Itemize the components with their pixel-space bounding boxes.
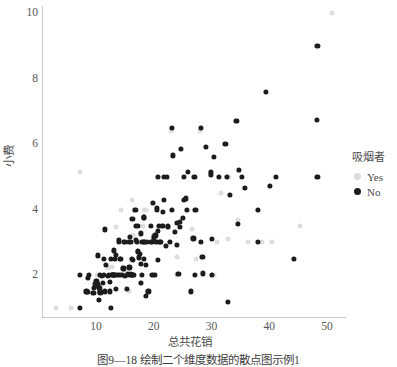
data-point-no [185, 169, 190, 174]
data-point-no [96, 297, 101, 302]
data-point-no [139, 281, 144, 286]
data-point-no [236, 222, 241, 227]
data-point-no [133, 207, 138, 212]
data-point-no [314, 117, 319, 122]
data-point-no [127, 265, 132, 270]
data-point-no [169, 207, 174, 212]
legend-item-no[interactable]: No [354, 184, 397, 199]
data-point-no [78, 272, 83, 277]
legend-title: 吸烟者 [352, 148, 397, 164]
data-point-no [193, 272, 198, 277]
legend-item-yes[interactable]: Yes [354, 169, 397, 184]
data-point-no [268, 183, 273, 188]
data-point-no [177, 224, 182, 229]
data-point-yes [189, 226, 194, 231]
legend-label-yes: Yes [367, 171, 383, 183]
data-point-yes [130, 197, 135, 202]
data-point-yes [174, 254, 179, 259]
data-point-no [198, 125, 203, 130]
data-point-no [160, 210, 165, 215]
data-point-no [191, 236, 196, 241]
data-point-no [107, 279, 112, 284]
data-point-yes [226, 236, 231, 241]
data-point-no [131, 272, 136, 277]
data-point-no [178, 146, 183, 151]
data-point-no [291, 256, 296, 261]
data-point-no [141, 215, 146, 220]
data-point-no [128, 240, 133, 245]
data-point-no [315, 174, 320, 179]
data-point-no [144, 262, 149, 267]
plot-area [42, 6, 345, 318]
data-point-yes [109, 265, 114, 270]
data-point-no [136, 223, 141, 228]
data-point-no [118, 256, 123, 261]
data-point-no [167, 240, 172, 245]
data-point-no [108, 305, 113, 310]
data-point-no [130, 216, 135, 221]
data-point-no [131, 257, 136, 262]
data-point-no [148, 223, 153, 228]
data-point-no [200, 254, 205, 259]
data-point-yes [53, 305, 58, 310]
data-point-yes [245, 240, 250, 245]
data-point-no [153, 233, 158, 238]
data-point-no [161, 197, 166, 202]
data-point-no [142, 256, 147, 261]
data-point-no [228, 192, 233, 197]
data-point-no [158, 240, 163, 245]
data-point-yes [69, 305, 74, 310]
x-axis-label: 总共花销 [0, 333, 380, 349]
data-point-no [243, 185, 248, 190]
data-point-no [169, 125, 174, 130]
data-point-yes [298, 223, 303, 228]
data-point-no [175, 242, 180, 247]
data-point-yes [118, 207, 123, 212]
data-point-no [184, 207, 189, 212]
data-point-no [164, 174, 169, 179]
data-point-no [103, 227, 108, 232]
data-point-no [211, 155, 216, 160]
data-point-no [203, 144, 208, 149]
data-point-no [225, 300, 230, 305]
data-point-no [170, 153, 175, 158]
legend-marker-no [354, 188, 361, 195]
data-point-no [239, 174, 244, 179]
data-point-no [108, 289, 113, 294]
data-point-no [234, 118, 239, 123]
data-point-no [95, 253, 100, 258]
data-point-yes [329, 11, 334, 16]
x-tick-label: 50 [307, 320, 347, 332]
data-point-no [263, 90, 268, 95]
data-point-no [223, 141, 228, 146]
data-point-no [85, 289, 90, 294]
y-tick-label: 10 [12, 7, 38, 18]
legend: 吸烟者 Yes No [352, 148, 397, 199]
data-point-yes [78, 169, 83, 174]
data-point-no [256, 207, 261, 212]
data-point-yes [259, 240, 264, 245]
data-point-no [101, 256, 106, 261]
data-point-no [201, 271, 206, 276]
data-point-no [172, 230, 177, 235]
data-point-no [155, 258, 160, 263]
data-point-no [274, 174, 279, 179]
data-point-no [155, 228, 160, 233]
data-point-no [182, 174, 187, 179]
data-point-no [86, 272, 91, 277]
x-tick-label: 30 [192, 320, 232, 332]
data-point-yes [193, 256, 198, 261]
data-point-no [198, 240, 203, 245]
data-point-no [152, 272, 157, 277]
y-tick-label: 8 [12, 73, 38, 84]
x-tick-label: 40 [249, 320, 289, 332]
data-point-no [178, 220, 183, 225]
data-point-no [146, 289, 151, 294]
data-point-no [166, 223, 171, 228]
figure-caption: 图9—18 绘制二个维度数据的散点图示例1 [0, 351, 397, 367]
data-point-no [216, 174, 221, 179]
data-point-yes [113, 224, 118, 229]
y-tick-label: 4 [12, 204, 38, 215]
y-tick-label: 2 [12, 269, 38, 280]
legend-marker-yes [354, 173, 361, 180]
